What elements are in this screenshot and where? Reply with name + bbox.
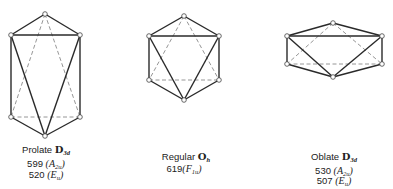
- regular-point-group: Oh: [198, 151, 210, 162]
- vertex-ur: [380, 34, 385, 39]
- vertex-ur: [78, 33, 83, 38]
- oblate-freq-2: 507 (Eu): [317, 176, 352, 189]
- visible-edge: [11, 14, 45, 35]
- hidden-edge: [45, 14, 80, 117]
- vertex-bottom: [182, 98, 187, 103]
- regular-octahedron: [147, 14, 222, 103]
- vertex-top: [331, 21, 336, 26]
- hidden-edge: [11, 14, 45, 117]
- regular-freq-1: 619(F1u): [166, 164, 201, 177]
- vertex-bottom: [43, 134, 48, 139]
- visible-edge: [11, 35, 45, 136]
- visible-edge: [184, 16, 219, 36]
- vertex-ul: [285, 34, 290, 39]
- vertex-ur: [217, 34, 222, 39]
- visible-edge: [45, 14, 80, 35]
- vertex-lr: [380, 62, 385, 67]
- vertex-ul: [9, 33, 14, 38]
- vertex-lr: [217, 78, 222, 83]
- vertex-lr: [78, 115, 83, 120]
- vertex-ul: [147, 34, 152, 39]
- oblate-label: Oblate D3d: [311, 152, 357, 165]
- prolate-octahedron: [9, 12, 83, 139]
- prolate-point-group: D3d: [55, 144, 70, 155]
- vertex-ll: [285, 62, 290, 67]
- oblate-point-group: D3d: [342, 151, 357, 162]
- oblate-octahedron: [285, 21, 385, 80]
- vertex-ll: [9, 115, 14, 120]
- vertex-top: [43, 12, 48, 17]
- vertex-ll: [147, 78, 152, 83]
- visible-edge: [149, 16, 184, 36]
- prolate-freq-2: 520 (Eu): [29, 170, 64, 183]
- vertex-top: [182, 14, 187, 19]
- visible-edge: [45, 35, 80, 136]
- vertex-bottom: [331, 75, 336, 80]
- prolate-label: Prolate D3d: [22, 145, 70, 158]
